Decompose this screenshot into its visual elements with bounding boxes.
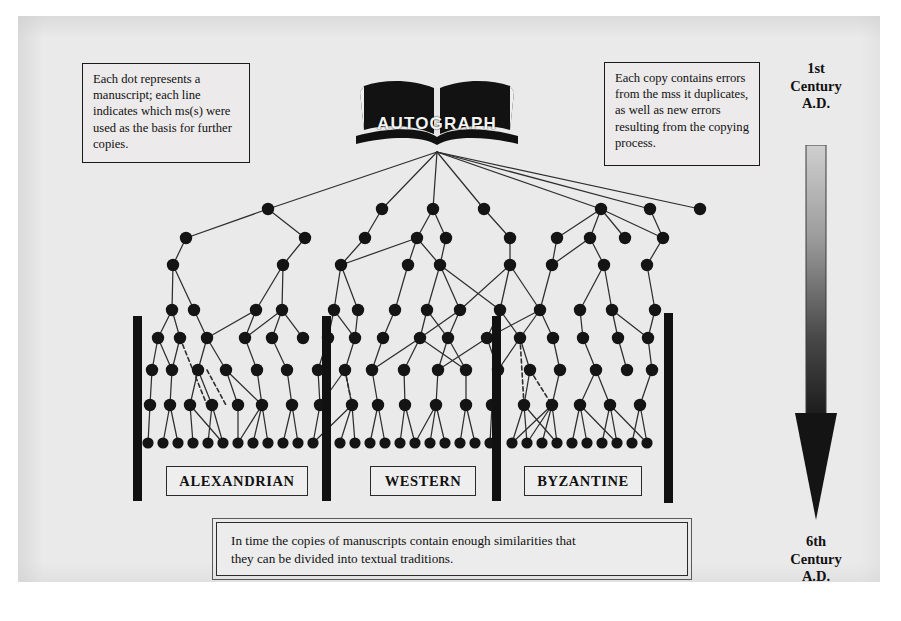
caption-line-2: they can be divided into textual traditi… <box>231 550 673 568</box>
autograph-label: AUTOGRAPH <box>354 114 520 134</box>
timeline-top-line-1: 1st <box>756 60 876 78</box>
diagram-stage: AUTOGRAPH Each dot represents a manuscri… <box>0 0 901 621</box>
caption-box: In time the copies of manuscripts contai… <box>216 522 688 576</box>
timeline-bottom-line-1: 6th <box>756 533 876 551</box>
tradition-label-western: WESTERN <box>370 466 476 496</box>
note-right-copy-errors: Each copy contains errors from the mss i… <box>604 62 760 166</box>
timeline-arrow-icon <box>793 145 839 520</box>
timeline-top-line-3: A.D. <box>756 95 876 113</box>
timeline-top-label: 1st Century A.D. <box>756 60 876 113</box>
tradition-label-alexandrian: ALEXANDRIAN <box>166 466 308 496</box>
autograph-book-icon: AUTOGRAPH <box>354 78 520 152</box>
note-left-dot-meaning: Each dot represents a manuscript; each l… <box>82 63 250 163</box>
timeline-top-line-2: Century <box>756 78 876 96</box>
tradition-label-byzantine: BYZANTINE <box>524 466 642 496</box>
timeline-bottom-line-2: Century <box>756 551 876 569</box>
caption-line-1: In time the copies of manuscripts contai… <box>231 532 673 550</box>
timeline-bottom-line-3: A.D. <box>756 568 876 586</box>
timeline-bottom-label: 6th Century A.D. <box>756 533 876 586</box>
